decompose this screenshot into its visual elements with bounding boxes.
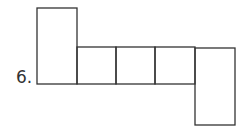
net-face-bottom-right-tall <box>195 48 235 125</box>
net-face-row-3 <box>155 47 195 84</box>
net-face-row-1 <box>77 47 116 84</box>
net-diagram <box>0 0 246 131</box>
net-face-row-2 <box>116 47 155 84</box>
net-face-top-left-tall <box>37 8 77 84</box>
